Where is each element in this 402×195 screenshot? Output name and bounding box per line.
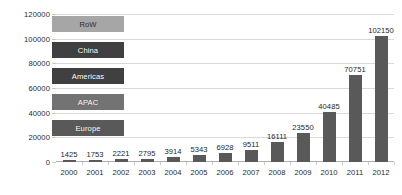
bar bbox=[219, 153, 232, 162]
bar bbox=[115, 159, 128, 162]
x-axis-tick bbox=[160, 162, 161, 165]
x-axis-tick bbox=[342, 162, 343, 165]
bar bbox=[323, 112, 336, 162]
x-axis-label: 2011 bbox=[347, 168, 364, 177]
x-axis-label: 2008 bbox=[268, 168, 285, 177]
y-axis-tick bbox=[52, 162, 56, 163]
y-axis-label: 0 bbox=[2, 158, 50, 167]
x-axis-tick bbox=[108, 162, 109, 165]
y-axis-tick bbox=[52, 88, 56, 89]
legend-item-label: China bbox=[78, 46, 98, 55]
x-axis-tick bbox=[368, 162, 369, 165]
bar-value-label: 2221 bbox=[112, 149, 129, 158]
bar-value-label: 5343 bbox=[190, 145, 207, 154]
x-axis-label: 2006 bbox=[216, 168, 233, 177]
legend-item-europe: Europe bbox=[52, 120, 124, 136]
x-axis-tick bbox=[82, 162, 83, 165]
x-axis-tick bbox=[212, 162, 213, 165]
x-axis-label: 2007 bbox=[242, 168, 259, 177]
legend-item-americas: Americas bbox=[52, 68, 124, 84]
plot-area bbox=[56, 14, 394, 162]
y-axis-label: 40000 bbox=[2, 108, 50, 117]
bar-value-label: 102150 bbox=[368, 26, 394, 35]
bar bbox=[167, 157, 180, 162]
legend-item-label: APAC bbox=[78, 98, 99, 107]
gridline bbox=[56, 39, 394, 40]
legend-item-label: Europe bbox=[75, 124, 100, 133]
y-axis-label: 80000 bbox=[2, 59, 50, 68]
y-axis-label: 100000 bbox=[2, 34, 50, 43]
x-axis-label: 2000 bbox=[60, 168, 77, 177]
gridline bbox=[56, 88, 394, 89]
bar bbox=[141, 159, 154, 162]
x-axis-tick bbox=[264, 162, 265, 165]
x-axis-label: 2002 bbox=[112, 168, 129, 177]
gridline bbox=[56, 63, 394, 64]
bar-value-label: 70751 bbox=[344, 65, 365, 74]
bar bbox=[63, 160, 76, 162]
bar-value-label: 23550 bbox=[292, 123, 313, 132]
gridline bbox=[56, 14, 394, 15]
legend-item-label: Americas bbox=[72, 72, 104, 81]
bar-value-label: 6928 bbox=[216, 143, 233, 152]
bar-value-label: 1753 bbox=[86, 150, 103, 159]
y-axis-tick bbox=[52, 113, 56, 114]
bar-value-label: 3914 bbox=[164, 147, 181, 156]
legend-item-apac: APAC bbox=[52, 94, 124, 110]
x-axis-label: 2003 bbox=[138, 168, 155, 177]
legend-item-row: RoW bbox=[52, 16, 124, 32]
y-axis-tick bbox=[52, 14, 56, 15]
x-axis-label: 2001 bbox=[86, 168, 103, 177]
y-axis-tick bbox=[52, 39, 56, 40]
x-axis-label: 2004 bbox=[164, 168, 181, 177]
bar bbox=[271, 142, 284, 162]
figure-caption bbox=[26, 186, 386, 195]
x-axis-label: 2009 bbox=[294, 168, 311, 177]
x-axis-tick bbox=[290, 162, 291, 165]
bar bbox=[297, 133, 310, 162]
x-axis-tick bbox=[238, 162, 239, 165]
bar bbox=[349, 75, 362, 162]
x-axis-tick bbox=[394, 162, 395, 165]
x-axis-tick bbox=[316, 162, 317, 165]
bar-value-label: 1425 bbox=[60, 150, 77, 159]
y-axis-tick bbox=[52, 137, 56, 138]
bar-value-label: 40485 bbox=[318, 102, 339, 111]
bar bbox=[193, 155, 206, 162]
bar-value-label: 16111 bbox=[267, 132, 287, 141]
bar bbox=[375, 36, 388, 162]
y-axis-label: 60000 bbox=[2, 84, 50, 93]
bar bbox=[89, 160, 102, 162]
x-axis-label: 2012 bbox=[372, 168, 389, 177]
legend-item-china: China bbox=[52, 42, 124, 58]
gridline bbox=[56, 113, 394, 114]
y-axis-label: 20000 bbox=[2, 133, 50, 142]
gridline bbox=[56, 137, 394, 138]
x-axis-tick bbox=[134, 162, 135, 165]
y-axis-label: 120000 bbox=[2, 10, 50, 19]
bar bbox=[245, 150, 258, 162]
bar-chart: 020000400006000080000100000120000 RoWChi… bbox=[0, 0, 402, 195]
x-axis-label: 2010 bbox=[320, 168, 337, 177]
legend-item-label: RoW bbox=[79, 20, 96, 29]
x-axis-label: 2005 bbox=[190, 168, 207, 177]
bar-value-label: 9511 bbox=[243, 140, 260, 149]
x-axis-tick bbox=[186, 162, 187, 165]
bar-value-label: 2795 bbox=[138, 149, 155, 158]
y-axis-tick bbox=[52, 63, 56, 64]
